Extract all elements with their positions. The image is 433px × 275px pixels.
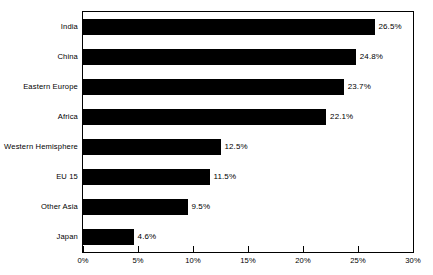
bar [83, 169, 210, 185]
x-axis-tick-mark [358, 246, 359, 252]
bar [83, 49, 356, 65]
bar [83, 229, 134, 245]
bar-chart: India26.5%China24.8%Eastern Europe23.7%A… [0, 0, 433, 275]
chart-bar-row: Other Asia9.5% [0, 192, 433, 222]
x-axis-tick-mark [138, 246, 139, 252]
x-axis-tick-label: 25% [338, 256, 378, 265]
category-label: Africa [0, 102, 78, 132]
category-label: India [0, 12, 78, 42]
x-axis-tick-mark [248, 246, 249, 252]
chart-bar-row: China24.8% [0, 42, 433, 72]
chart-bar-row: Eastern Europe23.7% [0, 72, 433, 102]
bar-value-label: 23.7% [348, 72, 371, 102]
x-axis-tick-mark [413, 246, 414, 252]
bar-value-label: 24.8% [360, 42, 383, 72]
category-label: Western Hemisphere [0, 132, 78, 162]
chart-bar-row: Western Hemisphere12.5% [0, 132, 433, 162]
chart-bar-row: India26.5% [0, 12, 433, 42]
category-label: Japan [0, 222, 78, 252]
bar-value-label: 4.6% [138, 222, 157, 252]
cropped-title-remnant [0, 0, 433, 5]
bar [83, 109, 326, 125]
bar [83, 79, 344, 95]
category-label: EU 15 [0, 162, 78, 192]
x-axis-tick-label: 5% [118, 256, 158, 265]
x-axis-tick-label: 10% [173, 256, 213, 265]
category-label: Eastern Europe [0, 72, 78, 102]
x-axis-tick-mark [193, 246, 194, 252]
x-axis-tick-label: 30% [393, 256, 433, 265]
bar [83, 19, 375, 35]
category-label: Other Asia [0, 192, 78, 222]
x-axis-tick-mark [83, 246, 84, 252]
chart-bar-row: EU 1511.5% [0, 162, 433, 192]
x-axis-tick-label: 20% [283, 256, 323, 265]
bar-value-label: 12.5% [225, 132, 248, 162]
bar-value-label: 22.1% [330, 102, 353, 132]
chart-bar-row: Japan4.6% [0, 222, 433, 252]
bar-value-label: 26.5% [379, 12, 402, 42]
bar [83, 199, 188, 215]
bar-value-label: 9.5% [192, 192, 211, 222]
bar-value-label: 11.5% [214, 162, 237, 192]
bar [83, 139, 221, 155]
x-axis-tick-label: 15% [228, 256, 268, 265]
category-label: China [0, 42, 78, 72]
x-axis-tick-label: 0% [63, 256, 103, 265]
chart-bar-row: Africa22.1% [0, 102, 433, 132]
x-axis-tick-mark [303, 246, 304, 252]
